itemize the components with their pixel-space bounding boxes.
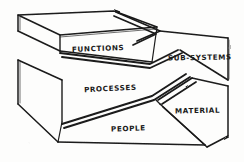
segment-label-functions: FUNCTIONS (72, 43, 125, 54)
segment-label-sub-systems: SUB-SYSTEMS (168, 52, 232, 62)
segment-functions-outline (18, 11, 157, 62)
segment-processes-outline (18, 60, 62, 142)
diagram-canvas: FUNCTIONS SUB-SYSTEMS PROCESSES MATERIAL… (0, 0, 244, 162)
box-sketch (0, 0, 244, 162)
cut-seam-processes-people (62, 74, 190, 128)
segment-subsystems-outline (114, 12, 228, 80)
segment-label-people: PEOPLE (111, 123, 146, 133)
segment-label-material: MATERIAL (175, 106, 220, 116)
